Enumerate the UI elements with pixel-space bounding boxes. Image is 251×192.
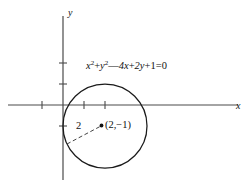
- center-coordinate-label: (2,−1): [105, 120, 131, 131]
- equation-term-2y: 2y: [135, 60, 145, 71]
- y-axis-label: y: [68, 8, 72, 18]
- circle-equation: x2+y2—4x+2y+1=0: [86, 61, 167, 72]
- geometry-figure: y x x2+y2—4x+2y+1=0 2 (2,−1): [0, 0, 251, 192]
- radius-length-label: 2: [76, 121, 81, 132]
- center-point-dot: [100, 124, 104, 128]
- equation-minus: —: [108, 60, 119, 71]
- x-axis-label: x: [236, 101, 240, 111]
- diagram-canvas: [0, 0, 251, 192]
- equation-rhs: 0: [162, 60, 167, 71]
- radius-segment: [67, 126, 101, 144]
- equation-term-4x: 4x: [119, 60, 129, 71]
